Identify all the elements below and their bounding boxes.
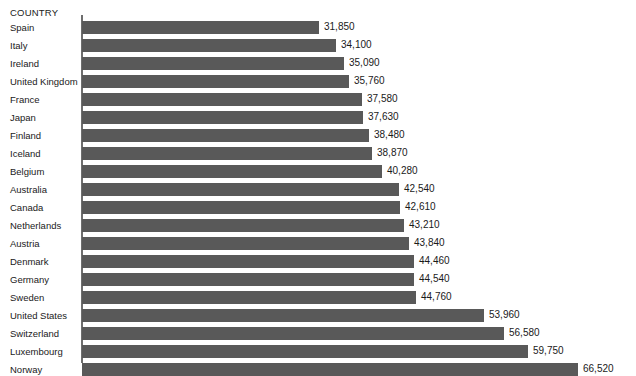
bar-row: France37,580: [0, 90, 636, 108]
bar[interactable]: [82, 129, 369, 142]
bar-category-label: Netherlands: [10, 220, 61, 231]
bar[interactable]: [82, 219, 404, 232]
bar-value-label: 38,870: [377, 147, 408, 159]
bar-category-label: Belgium: [10, 166, 44, 177]
bar[interactable]: [82, 75, 349, 88]
bar-row: Ireland35,090: [0, 54, 636, 72]
bar[interactable]: [82, 201, 400, 214]
bar-category-label: Germany: [10, 274, 49, 285]
bar-row: Switzerland56,580: [0, 324, 636, 342]
bar-category-label: Canada: [10, 202, 43, 213]
bar[interactable]: [82, 147, 372, 160]
bar-value-label: 35,760: [354, 75, 385, 87]
bar-category-label: Australia: [10, 184, 47, 195]
bar[interactable]: [82, 363, 578, 376]
bar-category-label: United Kingdom: [10, 76, 78, 87]
bar[interactable]: [82, 93, 362, 106]
bar-value-label: 59,750: [533, 345, 564, 357]
bar-value-label: 31,850: [324, 21, 355, 33]
bar-category-label: Denmark: [10, 256, 49, 267]
bar-value-label: 34,100: [341, 39, 372, 51]
bar-category-label: Ireland: [10, 58, 39, 69]
bar-value-label: 44,760: [421, 291, 452, 303]
bar-category-label: Austria: [10, 238, 40, 249]
bar-value-label: 38,480: [374, 129, 405, 141]
bar[interactable]: [82, 255, 414, 268]
bar[interactable]: [82, 165, 382, 178]
bar-row: Netherlands43,210: [0, 216, 636, 234]
bar-row: Denmark44,460: [0, 252, 636, 270]
bar-category-label: Luxembourg: [10, 346, 63, 357]
bar-row: Iceland38,870: [0, 144, 636, 162]
bar-value-label: 56,580: [509, 327, 540, 339]
bar-row: Germany44,540: [0, 270, 636, 288]
bar-category-label: Finland: [10, 130, 41, 141]
bar[interactable]: [82, 273, 414, 286]
bar-chart: COUNTRY Spain31,850Italy34,100Ireland35,…: [0, 0, 636, 376]
bar-row: Austria43,840: [0, 234, 636, 252]
bar[interactable]: [82, 57, 344, 70]
bar-row: Italy34,100: [0, 36, 636, 54]
bar-category-label: Iceland: [10, 148, 41, 159]
bar-value-label: 40,280: [387, 165, 418, 177]
bar[interactable]: [82, 327, 504, 340]
bar-row: Japan37,630: [0, 108, 636, 126]
bar-value-label: 44,540: [419, 273, 450, 285]
bar-category-label: Norway: [10, 364, 42, 375]
bar[interactable]: [82, 345, 528, 358]
bar-category-label: Italy: [10, 40, 27, 51]
bar-value-label: 42,540: [404, 183, 435, 195]
bar-category-label: France: [10, 94, 40, 105]
bar-row: Norway66,520: [0, 360, 636, 376]
bar-value-label: 35,090: [349, 57, 380, 69]
bar-row: Luxembourg59,750: [0, 342, 636, 360]
bar-category-label: United States: [10, 310, 67, 321]
bar-value-label: 43,210: [409, 219, 440, 231]
bar-row: Spain31,850: [0, 18, 636, 36]
bar-row: Belgium40,280: [0, 162, 636, 180]
bar[interactable]: [82, 21, 319, 34]
bar-value-label: 37,580: [367, 93, 398, 105]
bar-row: United Kingdom35,760: [0, 72, 636, 90]
bar[interactable]: [82, 291, 416, 304]
bar-value-label: 37,630: [368, 111, 399, 123]
bar[interactable]: [82, 39, 336, 52]
plot-area: Spain31,850Italy34,100Ireland35,090Unite…: [0, 0, 636, 376]
bar-value-label: 66,520: [583, 363, 614, 375]
bar-value-label: 44,460: [419, 255, 450, 267]
bar[interactable]: [82, 237, 409, 250]
bar[interactable]: [82, 309, 484, 322]
bar-category-label: Japan: [10, 112, 36, 123]
bar-category-label: Spain: [10, 22, 34, 33]
bar-value-label: 53,960: [489, 309, 520, 321]
bar[interactable]: [82, 183, 399, 196]
bar-row: Sweden44,760: [0, 288, 636, 306]
bar-row: Canada42,610: [0, 198, 636, 216]
bar[interactable]: [82, 111, 363, 124]
bar-value-label: 43,840: [414, 237, 445, 249]
bar-value-label: 42,610: [405, 201, 436, 213]
bar-row: Australia42,540: [0, 180, 636, 198]
bar-category-label: Sweden: [10, 292, 44, 303]
bar-category-label: Switzerland: [10, 328, 59, 339]
bar-row: Finland38,480: [0, 126, 636, 144]
bar-row: United States53,960: [0, 306, 636, 324]
